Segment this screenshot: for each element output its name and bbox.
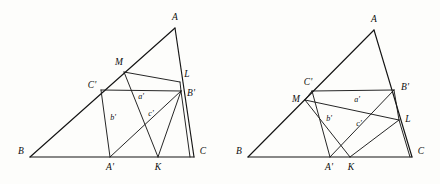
right-label-K: K [347,162,355,172]
left-label-Aprime: A' [105,162,115,172]
right-label-b-prime: b' [326,114,332,123]
right-label-B: B [236,146,242,156]
left-triangle-construction: A B C M L C' B' A' K a' b' c' [18,12,207,172]
left-segment-Cprime-Aprime [101,90,110,157]
left-label-b-prime: b' [110,113,116,122]
right-label-Cprime: C' [304,77,313,87]
left-outer-triangle [30,28,194,157]
right-segment-Bprime-L [394,90,399,120]
left-segment-M-L [124,72,180,82]
left-label-Bprime: B' [187,88,196,98]
right-side-AC [374,30,412,157]
left-label-L: L [183,69,189,79]
left-side-AB [30,28,175,157]
right-segment-Aprime-Bprime [330,90,394,157]
right-label-M: M [291,94,301,104]
left-label-Cprime: C' [88,80,97,90]
figure-root: A B C M L C' B' A' K a' b' c' [0,0,440,184]
left-label-K: K [154,162,162,172]
left-label-B: B [18,146,24,156]
right-label-Aprime: A' [324,162,334,172]
right-segment-Cprime-Aprime [312,91,330,157]
right-side-AB [248,30,374,157]
right-segment-L-C [399,120,410,157]
left-side-labels: a' b' c' [110,92,154,122]
right-segment-M-Cprime [305,91,312,100]
right-label-Bprime: B' [401,82,410,92]
left-label-A: A [171,12,178,22]
left-segment-K-Bprime [158,91,181,157]
right-label-a-prime: a' [354,95,360,104]
geometry-figure-svg: A B C M L C' B' A' K a' b' c' [0,0,440,184]
left-label-a-prime: a' [138,92,144,101]
right-outer-triangle [248,30,412,157]
left-segment-L-Bprime [180,82,181,91]
right-label-c-prime: c' [356,119,362,128]
left-label-M: M [114,57,124,67]
left-label-c-prime: c' [148,109,154,118]
right-label-C: C [418,146,425,156]
right-vertex-labels: A B C M L C' B' A' K [236,14,425,172]
right-label-L: L [404,114,410,124]
right-triangle-construction: A B C M L C' B' A' K a' b' c' [236,14,425,172]
left-vertex-labels: A B C M L C' B' A' K [18,12,207,172]
right-label-A: A [370,14,377,24]
right-segment-Cprime-Bprime [312,90,394,91]
left-segment-Aprime-Bprime [110,91,181,157]
left-label-C: C [200,146,207,156]
